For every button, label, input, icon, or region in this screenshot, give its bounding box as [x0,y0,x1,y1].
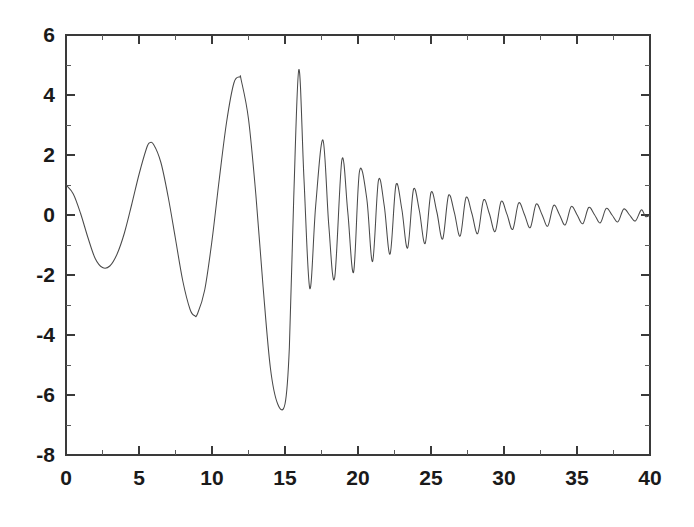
x-tick-label: 20 [346,466,369,489]
x-tick-label: 15 [273,466,297,489]
x-tick-label: 30 [492,466,515,489]
x-axis-tick-labels: 0510152025303540 [60,466,662,489]
y-tick-label: -6 [36,383,55,406]
y-axis-major-ticks [66,35,650,455]
damped-chirp-chart: 0510152025303540 -8-6-4-20246 [0,0,694,527]
x-tick-label: 0 [60,466,72,489]
x-tick-label: 10 [200,466,223,489]
data-series-line [66,69,650,409]
y-tick-label: 0 [43,203,55,226]
y-tick-label: 6 [43,23,55,46]
y-tick-label: -2 [36,263,55,286]
x-tick-label: 25 [419,466,443,489]
x-tick-label: 5 [133,466,145,489]
x-axis-minor-ticks [103,35,614,455]
y-axis-tick-labels: -8-6-4-20246 [36,23,55,466]
axis-frame [66,35,650,455]
series-group [66,69,650,409]
y-tick-label: -4 [36,323,55,346]
plot-box-border [66,35,650,455]
y-axis-minor-ticks [66,65,650,425]
x-tick-label: 40 [638,466,661,489]
chart-figure: 0510152025303540 -8-6-4-20246 [0,0,694,527]
x-tick-label: 35 [565,466,589,489]
y-tick-label: 2 [43,143,55,166]
y-tick-label: 4 [43,83,55,106]
y-tick-label: -8 [36,443,55,466]
x-axis-major-ticks [66,35,650,455]
